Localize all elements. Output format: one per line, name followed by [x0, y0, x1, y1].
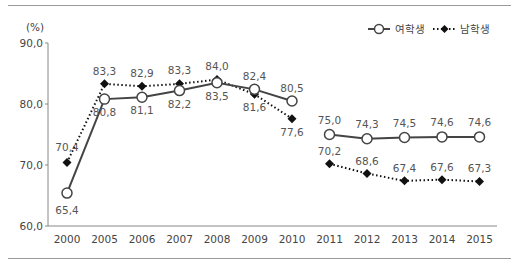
female-value-label: 82,2	[168, 98, 191, 110]
male-value-label: 81,6	[243, 101, 267, 113]
x-tick-label: 2007	[166, 233, 193, 245]
female-value-label: 82,4	[243, 70, 267, 82]
female-data-point	[175, 86, 185, 96]
male-value-label: 67,6	[430, 161, 454, 173]
male-value-label: 77,6	[280, 126, 304, 138]
male-data-point	[363, 169, 372, 178]
female-data-point	[475, 132, 485, 142]
female-data-point	[400, 133, 410, 143]
male-data-point	[325, 159, 334, 168]
legend-female-label: 여학생	[395, 23, 425, 35]
male-value-label: 70,4	[55, 141, 79, 153]
x-tick-label: 2005	[91, 233, 118, 245]
female-data-point	[325, 130, 335, 140]
x-tick-label: 2014	[429, 233, 456, 245]
x-tick-label: 2011	[316, 233, 343, 245]
female-value-label: 74,6	[430, 116, 454, 128]
male-value-label: 83,3	[168, 64, 191, 76]
female-data-point	[287, 96, 297, 106]
female-value-label: 80,5	[280, 82, 303, 94]
y-tick-label: 80,0	[20, 98, 43, 110]
female-value-label: 74,6	[468, 116, 492, 128]
legend-female-icon	[375, 25, 384, 34]
male-data-point	[63, 158, 72, 167]
female-data-point	[100, 94, 110, 104]
y-tick-label: 60,0	[20, 220, 43, 232]
y-tick-label: 90,0	[20, 37, 43, 49]
female-data-point	[62, 188, 72, 198]
male-data-point	[438, 175, 447, 184]
female-data-point	[250, 84, 260, 94]
x-tick-label: 2009	[241, 233, 268, 245]
male-data-point	[100, 79, 109, 88]
male-data-point	[475, 177, 484, 186]
female-data-point	[437, 132, 447, 142]
x-tick-label: 2008	[204, 233, 231, 245]
male-value-label: 68,6	[355, 155, 379, 167]
x-tick-label: 2013	[391, 233, 418, 245]
legend-male-icon	[441, 25, 449, 33]
x-tick-label: 2000	[54, 233, 81, 245]
female-data-point	[137, 92, 147, 102]
female-value-label: 83,5	[205, 90, 228, 102]
y-axis-unit: (%)	[26, 21, 44, 33]
female-value-label: 65,4	[55, 204, 79, 216]
female-data-point	[362, 134, 372, 144]
y-tick-label: 70,0	[20, 159, 43, 171]
female-value-label: 75,0	[318, 114, 341, 126]
female-value-label: 74,3	[355, 118, 378, 130]
x-tick-label: 2010	[279, 233, 306, 245]
female-value-label: 80,8	[93, 106, 116, 118]
male-data-point	[400, 176, 409, 185]
x-tick-label: 2015	[466, 233, 493, 245]
male-value-label: 67,4	[393, 162, 417, 174]
male-value-label: 83,3	[93, 65, 116, 77]
male-value-label: 82,9	[130, 67, 153, 79]
x-tick-label: 2006	[129, 233, 156, 245]
male-value-label: 70,2	[318, 145, 341, 157]
female-data-point	[212, 78, 222, 88]
x-tick-label: 2012	[354, 233, 381, 245]
male-value-label: 84,0	[205, 60, 228, 72]
legend-male-label: 남학생	[460, 23, 490, 35]
line-chart: 60,070,080,090,0(%)200020052006200720082…	[0, 0, 519, 264]
female-value-label: 74,5	[393, 117, 416, 129]
female-value-label: 81,1	[130, 104, 153, 116]
male-value-label: 67,3	[468, 162, 491, 174]
legend: 여학생남학생	[368, 23, 490, 35]
male-data-point	[138, 82, 147, 91]
